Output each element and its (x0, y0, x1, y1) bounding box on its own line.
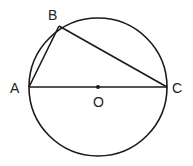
label-c: C (172, 80, 182, 96)
segment-bc (59, 26, 167, 87)
label-o: O (93, 94, 104, 110)
segment-ab (29, 26, 59, 87)
label-a: A (10, 80, 20, 96)
center-point-o (96, 85, 100, 89)
geometry-diagram: A B C O (0, 0, 193, 166)
label-b: B (48, 7, 57, 23)
